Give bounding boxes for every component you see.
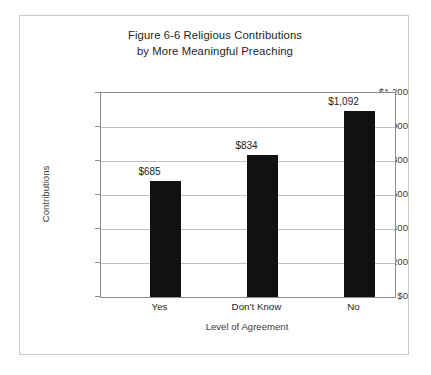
bar-yes[interactable] — [150, 181, 181, 297]
bar-value-no: $1,092 — [309, 96, 379, 108]
y-axis-title: Contributions — [39, 92, 53, 296]
bar-dont-know[interactable] — [247, 155, 278, 297]
chart-title-line-2: by More Meaningful Preaching — [20, 43, 410, 59]
x-category-label-dont-know: Don't Know — [212, 301, 302, 313]
x-category-label-no: No — [309, 301, 399, 313]
x-category-label-yes: Yes — [115, 301, 205, 313]
chart-title-line-1: Figure 6-6 Religious Contributions — [20, 27, 410, 43]
bar-value-dont-know: $834 — [212, 140, 282, 152]
x-axis-title: Level of Agreement — [100, 321, 394, 333]
bar-value-yes: $685 — [115, 166, 185, 178]
figure-frame: Figure 6-6 Religious Contributions by Mo… — [19, 15, 409, 355]
plot-area — [100, 92, 396, 298]
chart-title: Figure 6-6 Religious Contributions by Mo… — [20, 27, 410, 59]
bar-no[interactable] — [344, 111, 375, 297]
